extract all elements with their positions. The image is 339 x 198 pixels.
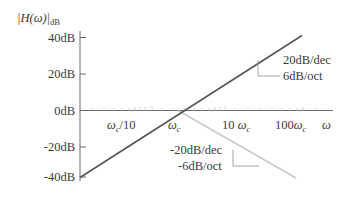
falling-slope-bracket <box>233 150 259 166</box>
y-tick-label-40: 40dB <box>0 31 75 44</box>
rising-slope-annotation-line2: 6dB/oct <box>283 70 323 83</box>
y-tick-label-minus20: -20dB <box>0 141 75 154</box>
omega-subscript: c <box>303 124 307 134</box>
omega-subscript: c <box>116 124 120 134</box>
y-axis-title: |H(ω)|dB <box>17 12 60 25</box>
y-tick-marks <box>80 38 86 178</box>
omega-subscript: c <box>246 124 250 134</box>
omega-symbol: ω <box>294 118 303 132</box>
omega-tail: /10 <box>120 118 136 132</box>
rising-slope-annotation-line1: 20dB/dec <box>283 54 331 67</box>
x-tick-lead: 100 <box>275 118 294 132</box>
x-tick-label-wc-over-10: ωc/10 <box>107 119 136 132</box>
falling-slope-annotation-line2: -6dB/oct <box>178 160 222 173</box>
x-tick-label-100wc: 100ωc <box>275 119 306 132</box>
omega-subscript: c <box>177 124 181 134</box>
omega-symbol: ω <box>107 118 116 132</box>
x-tick-lead: 10 <box>222 118 238 132</box>
omega-symbol: ω <box>168 118 177 132</box>
x-tick-label-wc: ωc <box>168 119 181 132</box>
y-tick-label-0: 0dB <box>0 104 75 117</box>
falling-slope-annotation-line1: -20dB/dec <box>170 144 222 157</box>
y-axis-title-sub: dB <box>50 17 60 27</box>
y-tick-label-minus40: -40dB <box>0 171 75 184</box>
y-tick-label-20: 20dB <box>0 68 75 81</box>
bode-magnitude-plot: |H(ω)|dB 40dB 20dB 0dB -20dB -40dB ωc/10… <box>0 0 339 198</box>
x-tick-label-10wc: 10 ωc <box>222 119 250 132</box>
y-axis-title-main: |H(ω)| <box>17 11 50 25</box>
x-axis-title: ω <box>322 119 331 132</box>
